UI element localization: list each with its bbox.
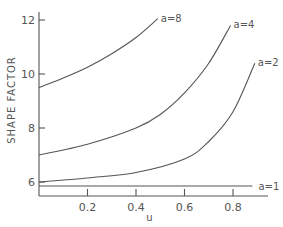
x-tick-label: 0.8 [224,201,242,214]
y-tick-label: 10 [21,68,35,81]
curve-labels: a=8a=4a=2a=1 [161,13,279,192]
shape-factor-chart: 0.20.40.60.8 681012 a=8a=4a=2a=1 u SHAPE… [0,0,283,227]
curve-a-4 [39,25,231,155]
y-tick-label: 8 [28,122,35,135]
x-tick-label: 0.6 [176,201,194,214]
curve-label: a=4 [234,19,255,30]
curve-a-8 [39,19,158,88]
x-ticks: 0.20.40.60.8 [79,189,242,214]
x-tick-label: 0.4 [127,201,145,214]
curve-label: a=8 [161,13,182,24]
y-tick-label: 12 [21,14,35,27]
curve-label: a=1 [258,181,279,192]
y-tick-label: 6 [28,176,35,189]
x-axis-label: u [146,212,153,223]
x-tick-label: 0.2 [79,201,97,214]
curves [39,19,255,186]
y-ticks: 681012 [21,14,45,189]
curve-label: a=2 [258,57,279,68]
y-axis-label: SHAPE FACTOR [6,56,17,144]
